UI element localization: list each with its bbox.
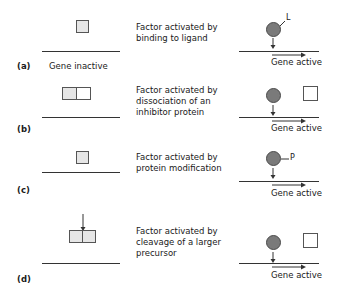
released-fragment-box xyxy=(303,233,318,248)
panel-letter: (c) xyxy=(17,185,30,195)
gene-inactive-label: Gene inactive xyxy=(49,61,108,71)
released-inhibitor-box xyxy=(303,86,318,101)
phosphate-bond-icon xyxy=(281,158,289,160)
factor-box xyxy=(62,87,77,100)
active-factor-circle xyxy=(266,22,281,37)
panel-letter: (d) xyxy=(17,274,31,284)
dna-line-inactive xyxy=(42,51,120,52)
down-arrow-icon xyxy=(270,168,276,180)
inhibitor-box xyxy=(76,87,91,100)
dna-line-inactive xyxy=(42,117,120,118)
description: Factor activated by protein modification xyxy=(136,152,222,174)
active-factor-circle xyxy=(266,235,281,250)
down-arrow-icon xyxy=(270,105,276,117)
description: Factor activated by cleavage of a larger… xyxy=(136,226,221,259)
dna-line-inactive xyxy=(42,172,120,173)
inactive-factor-box xyxy=(76,20,89,33)
gene-active-label: Gene active xyxy=(271,57,322,67)
active-factor-circle xyxy=(266,88,281,103)
precursor-right-box xyxy=(82,230,96,243)
down-arrow-icon xyxy=(270,38,276,50)
precursor-left-box xyxy=(69,230,83,243)
panel-letter: (b) xyxy=(17,124,31,134)
phosphate-label: P xyxy=(290,153,295,162)
gene-active-label: Gene active xyxy=(271,188,322,198)
gene-active-label: Gene active xyxy=(271,270,322,280)
gene-active-label: Gene active xyxy=(271,123,322,133)
description: Factor activated by binding to ligand xyxy=(136,22,218,44)
ligand-label: L xyxy=(286,13,290,22)
panel-letter: (a) xyxy=(17,61,31,71)
inactive-factor-box xyxy=(76,151,89,164)
active-factor-circle xyxy=(266,151,281,166)
dna-line-inactive xyxy=(42,263,120,264)
description: Factor activated by dissociation of an i… xyxy=(136,85,218,118)
